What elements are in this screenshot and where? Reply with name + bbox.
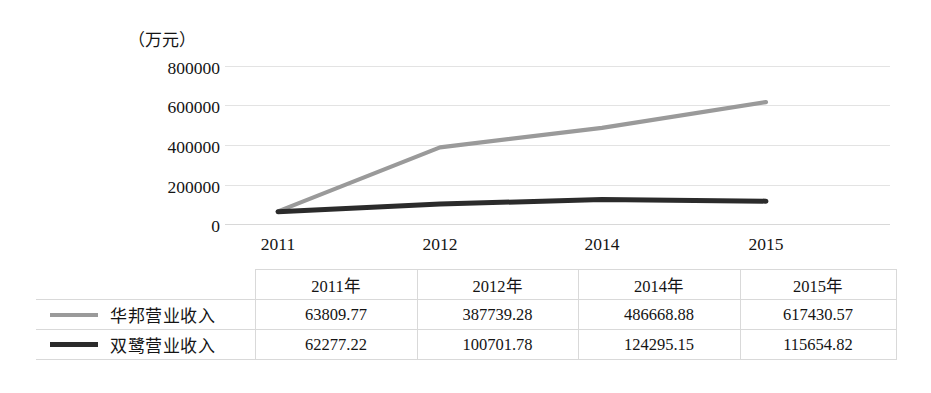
y-tick-label-800000: 800000 bbox=[168, 60, 221, 78]
line-chart: （万元） 800000 600000 400000 200000 0 2011 … bbox=[0, 0, 931, 262]
cell-huabang-2012: 387739.28 bbox=[417, 300, 578, 330]
legend-row-shuanglu: 双鹭营业收入 bbox=[36, 330, 255, 360]
x-axis-tick-labels: 2011 2012 2014 2015 bbox=[225, 236, 890, 260]
table-row: 双鹭营业收入 62277.22 100701.78 124295.15 1156… bbox=[36, 330, 896, 360]
cell-shuanglu-2014: 124295.15 bbox=[578, 330, 740, 360]
table-col-header-2014: 2014年 bbox=[578, 270, 740, 300]
table-col-header-2015: 2015年 bbox=[740, 270, 896, 300]
y-tick-label-0: 0 bbox=[211, 218, 220, 236]
series-line-shuanglu bbox=[278, 199, 766, 211]
cell-shuanglu-2015: 115654.82 bbox=[740, 330, 896, 360]
cell-huabang-2015: 617430.57 bbox=[740, 300, 896, 330]
legend-label-huabang: 华邦营业收入 bbox=[110, 302, 215, 327]
x-tick-label-2015: 2015 bbox=[749, 236, 784, 254]
y-tick-label-400000: 400000 bbox=[168, 139, 221, 157]
table-col-header-2011: 2011年 bbox=[255, 270, 417, 300]
legend-line-icon-huabang bbox=[50, 313, 98, 317]
plot-area bbox=[225, 60, 890, 230]
cell-huabang-2011: 63809.77 bbox=[255, 300, 417, 330]
y-tick-label-200000: 200000 bbox=[168, 179, 221, 197]
cell-shuanglu-2012: 100701.78 bbox=[417, 330, 578, 360]
cell-huabang-2014: 486668.88 bbox=[578, 300, 740, 330]
series-lines bbox=[225, 60, 890, 230]
data-table: 2011年 2012年 2014年 2015年 华邦营业收入 63809.77 … bbox=[36, 269, 897, 360]
y-axis-tick-labels: 800000 600000 400000 200000 0 bbox=[120, 52, 220, 238]
table-corner-cell bbox=[36, 270, 255, 300]
table-row: 华邦营业收入 63809.77 387739.28 486668.88 6174… bbox=[36, 300, 896, 330]
table-col-header-2012: 2012年 bbox=[417, 270, 578, 300]
table-header-row: 2011年 2012年 2014年 2015年 bbox=[36, 270, 896, 300]
legend-line-icon-shuanglu bbox=[50, 342, 98, 347]
x-tick-label-2014: 2014 bbox=[585, 236, 620, 254]
series-line-huabang bbox=[278, 102, 766, 211]
x-tick-label-2012: 2012 bbox=[423, 236, 458, 254]
y-axis-unit-label: （万元） bbox=[128, 26, 196, 51]
x-tick-label-2011: 2011 bbox=[261, 236, 295, 254]
legend-row-huabang: 华邦营业收入 bbox=[36, 300, 255, 330]
chart-page: （万元） 800000 600000 400000 200000 0 2011 … bbox=[0, 0, 931, 393]
legend-label-shuanglu: 双鹭营业收入 bbox=[110, 332, 215, 357]
y-tick-label-600000: 600000 bbox=[168, 99, 221, 117]
cell-shuanglu-2011: 62277.22 bbox=[255, 330, 417, 360]
